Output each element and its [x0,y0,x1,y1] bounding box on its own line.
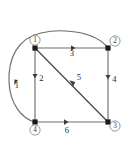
edge-3-label: 3 [70,48,74,58]
node-4-label-group[interactable]: 4 [30,125,40,135]
node-3-number: 3 [113,122,117,130]
edge-1-label: 1 [15,80,19,90]
node-3-label-group[interactable]: 3 [110,121,120,131]
edge-4-label: 4 [112,74,117,84]
edge-4-arrowhead [105,75,110,80]
edge-2-label: 2 [39,73,43,83]
node-3-marker[interactable] [105,119,110,124]
edge-6-label: 6 [65,125,70,135]
edge-5-label: 5 [77,72,81,82]
node-4-number: 4 [33,126,37,134]
node-2-number: 2 [113,37,117,45]
node-1-marker[interactable] [32,45,37,50]
node-1-number: 1 [33,36,37,44]
edge-2-arrowhead [32,74,37,79]
graph-canvas: 1 2 3 4 1 2 3 4 5 6 [0,0,126,146]
graph-figure: 1 2 3 4 1 2 3 4 5 6 [0,0,126,146]
node-2-marker[interactable] [105,45,110,50]
node-4-marker[interactable] [32,119,37,124]
edge-5-line [35,48,108,122]
node-1-label-group[interactable]: 1 [30,35,40,45]
edge-1-arc [9,31,108,122]
node-2-label-group[interactable]: 2 [110,36,120,46]
